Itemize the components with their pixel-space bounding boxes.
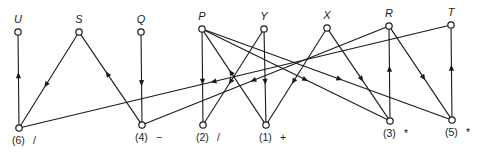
node-label-X: X — [322, 9, 331, 21]
node-label-R: R — [385, 7, 393, 19]
operator-label-n6: / — [33, 134, 36, 146]
edge-n6-to-U — [18, 35, 19, 125]
node-Q — [138, 29, 144, 35]
node-label-n1: (1) — [259, 131, 272, 143]
node-R — [386, 23, 392, 29]
arrowhead-icon — [387, 66, 392, 72]
operator-label-n5: * — [466, 126, 470, 138]
node-S — [76, 29, 82, 35]
arrowhead-icon — [44, 81, 49, 87]
node-label-n4: (4) — [135, 131, 148, 143]
arrowhead-icon — [210, 78, 216, 83]
expression-dag: USQPYXRT(6)/(4)−(2)/(1)+(3)*(5)* — [0, 0, 479, 155]
node-label-Y: Y — [260, 10, 268, 22]
node-U — [15, 29, 21, 35]
node-n5 — [449, 117, 455, 123]
edge-R-to-n5 — [391, 29, 450, 118]
edge-P-to-n2 — [202, 32, 203, 122]
arrowhead-icon — [139, 80, 144, 86]
arrowhead-icon — [106, 71, 112, 77]
edge-Y-to-n1 — [264, 32, 266, 122]
arrowhead-icon — [292, 77, 297, 83]
node-label-n5: (5) — [445, 126, 458, 138]
edge-n4-to-S — [81, 35, 140, 123]
edge-S-to-n6 — [21, 35, 78, 126]
arrowhead-icon — [229, 78, 234, 84]
node-n1 — [263, 122, 269, 128]
arrowhead-icon — [358, 75, 364, 81]
operator-label-n2: / — [217, 131, 220, 143]
arrowhead-icon — [250, 77, 257, 82]
labels: USQPYXRT(6)/(4)−(2)/(1)+(3)*(5)* — [12, 6, 470, 146]
arrowhead-icon — [229, 70, 234, 76]
arrowhead-icon — [449, 65, 454, 71]
node-n6 — [16, 125, 22, 131]
arrowhead-icon — [336, 76, 343, 81]
arrowhead-icon — [16, 72, 21, 78]
node-label-n3: (3) — [383, 127, 396, 139]
node-label-S: S — [75, 13, 83, 25]
node-label-U: U — [14, 13, 22, 25]
node-label-T: T — [448, 6, 456, 18]
arrowhead-icon — [262, 79, 267, 85]
node-n4 — [139, 122, 145, 128]
edge-X-to-n1 — [268, 31, 326, 123]
operator-label-n4: − — [156, 131, 162, 143]
node-n3 — [387, 118, 393, 124]
node-label-n2: (2) — [196, 131, 209, 143]
edge-Q-to-n4 — [141, 35, 142, 122]
node-label-Q: Q — [137, 13, 146, 25]
edge-n5-to-T — [451, 28, 452, 117]
operator-label-n1: + — [280, 131, 286, 143]
operator-label-n3: * — [404, 127, 408, 139]
edges — [16, 26, 454, 128]
node-label-P: P — [198, 10, 206, 22]
arrowhead-icon — [420, 74, 426, 80]
node-X — [324, 25, 330, 31]
node-label-n6: (6) — [12, 134, 25, 146]
node-n2 — [200, 122, 206, 128]
node-P — [199, 26, 205, 32]
node-Y — [261, 26, 267, 32]
edge-n3-to-R — [389, 29, 390, 118]
node-T — [448, 22, 454, 28]
